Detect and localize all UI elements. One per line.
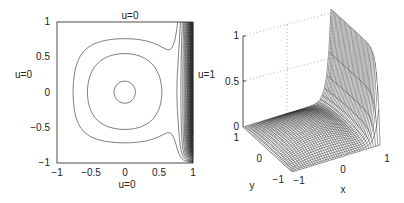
surface-ztick: 0 xyxy=(233,121,239,132)
contour-xtick: −1 xyxy=(51,167,63,178)
boundary-label-bottom: u=0 xyxy=(119,179,136,190)
surface-xtick: 0 xyxy=(340,164,346,175)
contour-ytick: 1 xyxy=(44,16,50,27)
contour-axes-box xyxy=(57,22,193,163)
contour-lines xyxy=(73,22,193,163)
surface-xtick: −1 xyxy=(293,175,305,186)
contour-plot: 1 0.5 0 −0.5 −1 −1 −0.5 0 0.5 1 u=0 u=0 … xyxy=(15,10,215,190)
surface-ytick: −1 xyxy=(273,174,285,185)
surface-ytick: 0 xyxy=(256,153,262,164)
contour-ytick: −0.5 xyxy=(30,122,50,133)
surface-xlabel: x xyxy=(341,184,346,195)
contour-xtick: −0.5 xyxy=(81,167,101,178)
boundary-label-top: u=0 xyxy=(122,10,139,21)
boundary-label-right: u=1 xyxy=(198,69,215,80)
surface-grid xyxy=(243,13,331,113)
contour-xtick: 1 xyxy=(190,167,196,178)
figure: 1 0.5 0 −0.5 −1 −1 −0.5 0 0.5 1 u=0 u=0 … xyxy=(0,0,404,203)
boundary-label-left: u=0 xyxy=(15,69,32,80)
surface-xtick: 1 xyxy=(384,153,390,164)
surface-ztick: 1 xyxy=(233,30,239,41)
contour-ytick: 0 xyxy=(44,87,50,98)
contour-ytick: −1 xyxy=(39,157,51,168)
surface-ztick: 0.5 xyxy=(225,76,239,87)
surface-ylabel: y xyxy=(250,180,255,191)
surface-ytick: 1 xyxy=(233,132,239,143)
contour-xtick: 0.5 xyxy=(152,167,166,178)
contour-xtick: 0 xyxy=(122,167,128,178)
surface-plot: 1 0.5 0 1 0 −1 y −1 0 1 x xyxy=(225,9,390,195)
contour-ytick: 0.5 xyxy=(36,51,50,62)
surface-mesh xyxy=(243,9,380,172)
